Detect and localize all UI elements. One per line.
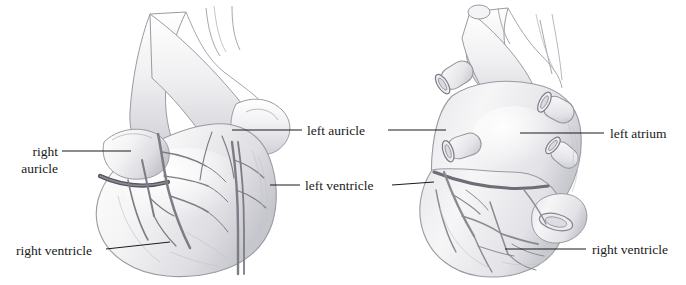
label-left-auricle: left auricle (307, 122, 365, 139)
label-right-ventricle-right: right ventricle (592, 241, 668, 258)
anterior-view-heart (96, 6, 290, 277)
label-left-ventricle: left ventricle (305, 177, 374, 194)
label-right-auricle-line2: auricle (0, 160, 58, 177)
label-right-ventricle-left: right ventricle (16, 242, 92, 259)
label-right-auricle: right auricle (0, 143, 58, 177)
heart-illustration-canvas (0, 0, 686, 285)
label-right-auricle-line1: right (0, 143, 58, 160)
heart-anatomy-figure: right auricle right ventricle left auric… (0, 0, 686, 285)
posterior-view-heart (420, 5, 587, 277)
label-left-atrium: left atrium (610, 125, 667, 142)
